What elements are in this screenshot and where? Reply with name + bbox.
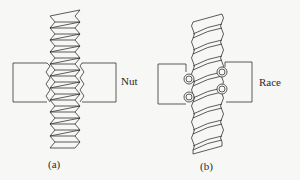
race-b [158,62,252,104]
figure: Nut (a) Race (b) [0,0,300,180]
nut-a [13,63,116,102]
caption-a: (a) [48,158,60,170]
balls-b [184,67,227,102]
nut-label: Nut [121,75,138,87]
race-label: Race [259,76,281,88]
screw-a [50,10,80,148]
caption-b: (b) [200,160,213,172]
diagram-canvas [0,0,300,180]
screw-b [192,14,224,154]
